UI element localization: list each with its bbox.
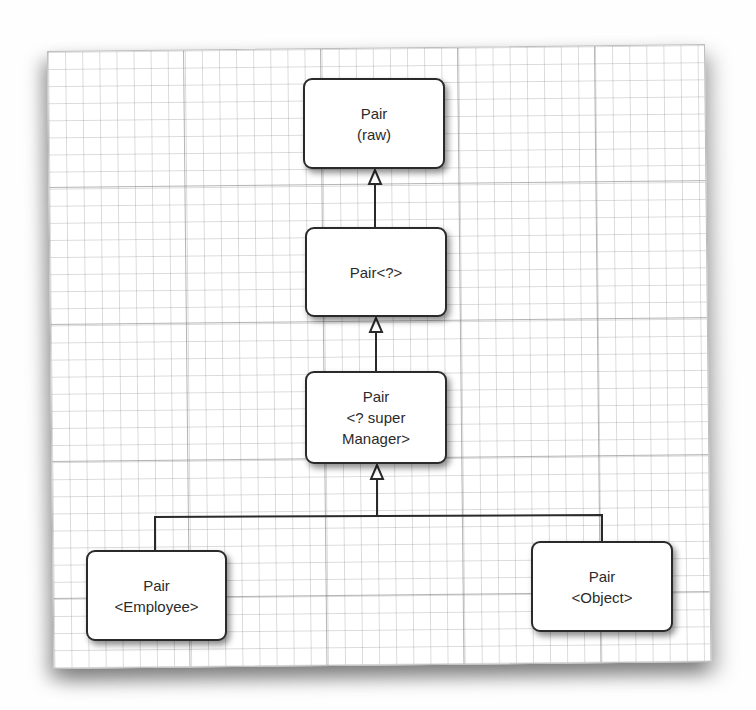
node-pair-wildcard: Pair<?> bbox=[305, 227, 447, 317]
hollow-arrowhead-icon bbox=[370, 318, 382, 332]
hollow-arrowhead-icon bbox=[371, 465, 383, 479]
node-pair-object: Pair <Object> bbox=[531, 541, 673, 632]
node-label-line: Pair bbox=[589, 566, 616, 587]
node-label-line: Pair<?> bbox=[350, 262, 403, 283]
diagram-canvas: Pair (raw) Pair<?> Pair <? super Manager… bbox=[0, 0, 756, 710]
class-hierarchy-diagram: Pair (raw) Pair<?> Pair <? super Manager… bbox=[0, 0, 756, 710]
node-label-line: Pair bbox=[143, 575, 170, 596]
node-pair-raw: Pair (raw) bbox=[303, 78, 445, 169]
node-label-line: Manager> bbox=[342, 428, 410, 449]
node-label-line: (raw) bbox=[357, 124, 391, 145]
node-label-line: <Employee> bbox=[114, 596, 198, 617]
node-label-line: <? super bbox=[347, 407, 406, 428]
node-pair-employee: Pair <Employee> bbox=[86, 550, 227, 641]
node-label-line: Pair bbox=[361, 103, 388, 124]
hollow-arrowhead-icon bbox=[369, 170, 381, 184]
node-label-line: <Object> bbox=[572, 587, 633, 608]
node-label-line: Pair bbox=[363, 386, 390, 407]
node-pair-super-manager: Pair <? super Manager> bbox=[305, 371, 447, 464]
